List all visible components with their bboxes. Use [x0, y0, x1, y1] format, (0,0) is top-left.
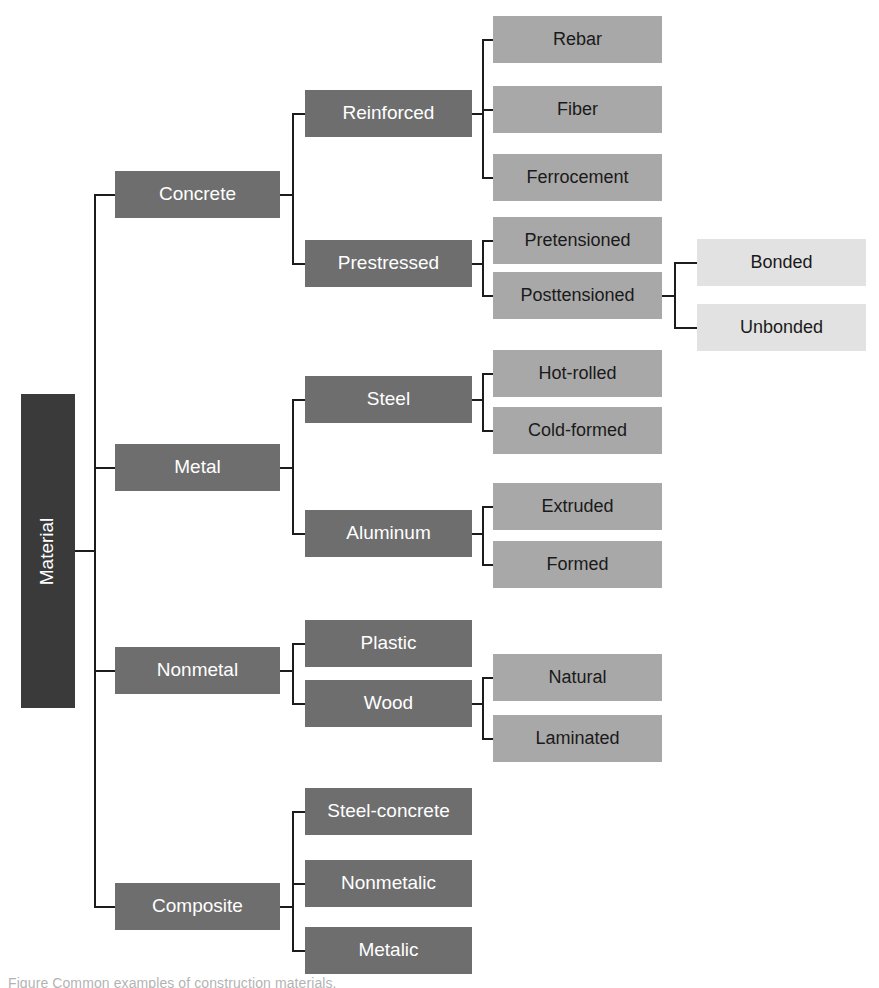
node-label: Steel-concrete	[327, 801, 450, 822]
node-label: Fiber	[557, 100, 598, 120]
connector-metal-to-steel	[292, 399, 306, 401]
node-label: Metalic	[358, 940, 418, 961]
node-label: Hot-rolled	[538, 364, 616, 384]
connector-metal-spine	[292, 399, 294, 535]
connector-root-to-nonmetal	[94, 670, 116, 672]
node-hot-rolled[interactable]: Hot-rolled	[493, 350, 662, 397]
connector-metal-to-aluminum	[292, 533, 306, 535]
node-composite[interactable]: Composite	[115, 883, 280, 930]
connector-prestressed-spine	[482, 240, 484, 297]
connector-root-to-composite	[94, 906, 116, 908]
material-classification-diagram: Material Concrete Metal Nonmetal Composi…	[0, 0, 879, 988]
node-extruded[interactable]: Extruded	[493, 483, 662, 530]
node-label: Concrete	[159, 184, 236, 205]
node-label: Steel	[367, 389, 410, 410]
node-nonmetal[interactable]: Nonmetal	[115, 647, 280, 694]
node-label: Rebar	[553, 30, 602, 50]
connector-root-to-concrete	[94, 194, 116, 196]
node-label: Bonded	[750, 253, 812, 273]
connector-concrete-to-prestressed	[292, 263, 306, 265]
node-label: Extruded	[541, 497, 613, 517]
connector-nonmetal-to-wood	[292, 703, 306, 705]
node-reinforced[interactable]: Reinforced	[305, 90, 472, 137]
node-posttensioned[interactable]: Posttensioned	[493, 272, 662, 319]
connector-composite-to-nonmetalic	[292, 883, 306, 885]
node-nonmetalic[interactable]: Nonmetalic	[305, 860, 472, 907]
node-label: Natural	[548, 668, 606, 688]
node-wood[interactable]: Wood	[305, 680, 472, 727]
connector-steel-spine	[482, 373, 484, 432]
node-label: Reinforced	[343, 103, 435, 124]
node-label: Plastic	[361, 633, 417, 654]
node-metalic[interactable]: Metalic	[305, 927, 472, 974]
node-label: Cold-formed	[528, 421, 627, 441]
node-fiber[interactable]: Fiber	[493, 86, 662, 133]
node-prestressed[interactable]: Prestressed	[305, 240, 472, 287]
node-natural[interactable]: Natural	[493, 654, 662, 701]
node-aluminum[interactable]: Aluminum	[305, 510, 472, 557]
connector-posttensioned-to-unbonded	[674, 327, 698, 329]
node-unbonded[interactable]: Unbonded	[697, 304, 866, 351]
node-material-root[interactable]: Material	[21, 394, 75, 708]
node-label: Material	[38, 517, 59, 585]
node-label: Laminated	[535, 729, 619, 749]
connector-posttensioned-to-bonded	[674, 262, 698, 264]
node-label: Wood	[364, 693, 413, 714]
node-formed[interactable]: Formed	[493, 541, 662, 588]
node-bonded[interactable]: Bonded	[697, 239, 866, 286]
connector-posttensioned-spine	[674, 262, 676, 329]
figure-caption: Figure Common examples of construction m…	[8, 975, 708, 988]
connector-aluminum-spine	[482, 506, 484, 566]
connector-root-stub	[75, 550, 96, 552]
node-plastic[interactable]: Plastic	[305, 620, 472, 667]
connector-root-to-metal	[94, 467, 116, 469]
node-label: Formed	[546, 555, 608, 575]
node-pretensioned[interactable]: Pretensioned	[493, 217, 662, 264]
connector-wood-spine	[482, 677, 484, 740]
node-steel[interactable]: Steel	[305, 376, 472, 423]
node-label: Composite	[152, 896, 243, 917]
node-label: Pretensioned	[524, 231, 630, 251]
node-label: Posttensioned	[520, 286, 634, 306]
node-label: Ferrocement	[526, 168, 628, 188]
node-laminated[interactable]: Laminated	[493, 715, 662, 762]
node-label: Metal	[174, 457, 220, 478]
connector-concrete-to-reinforced	[292, 113, 306, 115]
connector-composite-to-steel-concrete	[292, 811, 306, 813]
connector-nonmetal-to-plastic	[292, 643, 306, 645]
node-label: Prestressed	[338, 253, 439, 274]
node-concrete[interactable]: Concrete	[115, 171, 280, 218]
node-cold-formed[interactable]: Cold-formed	[493, 407, 662, 454]
connector-root-spine	[94, 194, 96, 907]
node-label: Nonmetalic	[341, 873, 436, 894]
node-ferrocement[interactable]: Ferrocement	[493, 154, 662, 201]
connector-nonmetal-spine	[292, 643, 294, 705]
node-steel-concrete[interactable]: Steel-concrete	[305, 788, 472, 835]
connector-concrete-spine	[292, 113, 294, 265]
connector-composite-spine	[292, 811, 294, 952]
node-label: Unbonded	[740, 318, 823, 338]
node-label: Aluminum	[346, 523, 430, 544]
connector-composite-to-metalic	[292, 950, 306, 952]
node-label: Nonmetal	[157, 660, 238, 681]
node-rebar[interactable]: Rebar	[493, 16, 662, 63]
node-metal[interactable]: Metal	[115, 444, 280, 491]
